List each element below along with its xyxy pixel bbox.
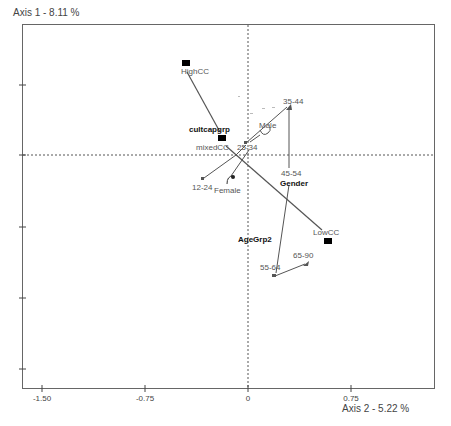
label-65-90: 65-90 xyxy=(293,251,314,260)
label-55-64: 55-64 xyxy=(260,263,281,272)
faint-artifacts xyxy=(238,96,275,114)
label-male: Male xyxy=(259,121,277,130)
label-female: Female xyxy=(214,186,241,195)
label-highcc: HighCC xyxy=(181,67,209,76)
label-35-44: 35-44 xyxy=(283,97,304,106)
label-mixedcc: mixedCC xyxy=(196,143,229,152)
marker-lowcc xyxy=(324,238,332,244)
marker-highcc xyxy=(182,60,190,66)
gender-lines xyxy=(231,107,287,176)
female-marker xyxy=(231,175,235,179)
group-label-gender: Gender xyxy=(280,179,308,188)
label-45-54: 45-54 xyxy=(281,169,302,178)
marker-mixedcc xyxy=(218,135,226,141)
plot-frame xyxy=(23,25,435,389)
scatter-plot: HighCC mixedCC LowCC Male Female 12-24 2… xyxy=(0,0,451,426)
label-25-34: 25-34 xyxy=(237,143,258,152)
label-12-24: 12-24 xyxy=(192,183,213,192)
group-label-cultcapgrp: cultcapgrp xyxy=(189,125,230,134)
label-lowcc: LowCC xyxy=(313,228,339,237)
group-label-agegrp2: AgeGrp2 xyxy=(238,235,272,244)
